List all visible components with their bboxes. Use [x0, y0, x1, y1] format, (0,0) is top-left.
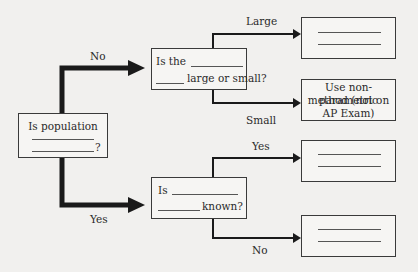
blank-line [318, 154, 381, 155]
edge-label-no-known: No [252, 244, 268, 256]
edge-label-yes: Yes [90, 213, 108, 225]
blank-line [32, 151, 94, 152]
blank-line [172, 194, 238, 195]
blank-line [318, 229, 381, 230]
root-question-box: Is population ? [18, 113, 108, 158]
nonparam-line3: AP Exam) [302, 107, 395, 120]
blank-line [191, 66, 243, 67]
blank-line [318, 241, 381, 242]
edge-label-no: No [90, 50, 106, 62]
result-large-box [301, 17, 396, 59]
blank-line [318, 32, 381, 33]
arrow-yes-icon [128, 197, 145, 213]
known-question-prefix: Is [158, 184, 168, 197]
size-question-prefix: Is the [156, 55, 186, 68]
blank-line [158, 210, 200, 211]
blank-line [32, 139, 94, 140]
edge-label-large: Large [246, 15, 277, 27]
blank-line [318, 166, 381, 167]
question-mark: ? [95, 141, 101, 154]
arrow-no-icon [128, 60, 145, 76]
nonparam-line2: method (not on [302, 94, 395, 107]
size-question-box: Is the large or small? [151, 48, 247, 90]
known-question-suffix: known? [202, 200, 243, 213]
known-question-box: Is known? [151, 177, 247, 219]
root-question-text: Is population [19, 120, 107, 133]
edge-label-small: Small [246, 114, 276, 126]
result-known-yes-box [301, 140, 396, 182]
blank-line [156, 83, 184, 84]
blank-line [318, 44, 381, 45]
result-known-no-box [301, 215, 396, 257]
size-question-suffix: large or small? [187, 72, 267, 85]
result-nonparametric-box: Use non-parametric method (not on AP Exa… [301, 79, 396, 121]
edge-label-yes-known: Yes [252, 140, 270, 152]
